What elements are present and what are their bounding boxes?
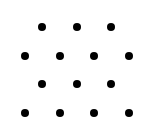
dot	[21, 109, 29, 117]
dot	[107, 23, 115, 31]
dot	[38, 23, 46, 31]
dot-pattern	[0, 0, 143, 139]
dot	[90, 109, 98, 117]
dot	[56, 52, 64, 60]
dot	[90, 52, 98, 60]
dot	[73, 80, 81, 88]
dot	[125, 52, 133, 60]
dot	[38, 80, 46, 88]
dot	[125, 109, 133, 117]
dot	[56, 109, 64, 117]
dot	[107, 80, 115, 88]
dot	[73, 23, 81, 31]
dot	[21, 52, 29, 60]
